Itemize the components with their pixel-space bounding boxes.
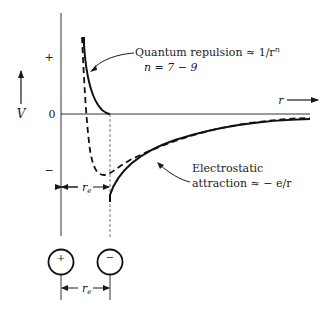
negative-ion-sign: −: [106, 252, 114, 263]
plus-label: +: [44, 51, 53, 64]
ion-separation-label: re: [82, 282, 91, 296]
v-axis-label: V: [17, 107, 27, 121]
repulsion-curve: [84, 37, 110, 114]
equilibrium-label: re: [82, 181, 91, 195]
minus-label: −: [44, 164, 53, 177]
zero-label: 0: [49, 108, 56, 121]
attraction-label-1: Electrostatic: [192, 162, 263, 175]
repulsion-n-range: n = 7 − 9: [144, 61, 198, 74]
attraction-leader: [160, 165, 190, 182]
potential-diagram: 0 + − V r Quantum repulsion ≈ 1/rn n = 7…: [0, 0, 334, 319]
repulsion-leader: [92, 53, 134, 70]
attraction-label-2: attraction ≈ − e/r: [192, 177, 292, 190]
r-axis-label: r: [278, 94, 284, 107]
repulsion-label: Quantum repulsion ≈ 1/rn: [135, 45, 280, 59]
positive-ion-sign: +: [57, 252, 65, 263]
